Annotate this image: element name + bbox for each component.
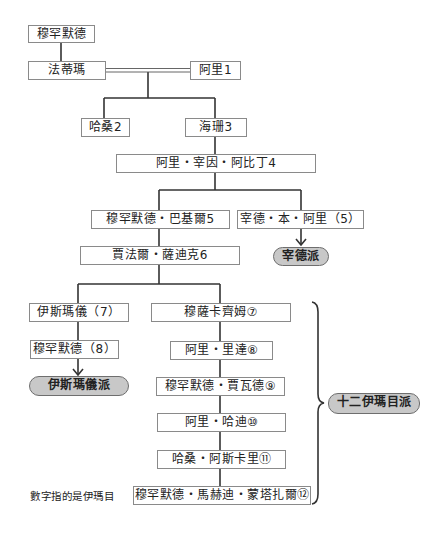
node-jafar-sadiq-6: 賈法爾・薩迪克6 — [80, 246, 240, 265]
node-musa-kazim-7: 穆薩卡齊姆⑦ — [151, 303, 291, 322]
node-fatima: 法蒂瑪 — [28, 61, 106, 80]
node-muhammad-8: 穆罕默德（8） — [30, 340, 119, 359]
node-ali-hadi-10: 阿里・哈迪⑩ — [157, 413, 286, 432]
node-muhammad-jawad-9: 穆罕默德・賈瓦德⑨ — [156, 377, 285, 396]
node-ali-1: 阿里1 — [190, 61, 241, 80]
node-muhammad: 穆罕默德 — [28, 25, 95, 43]
node-hasan-askari-11: 哈桑・阿斯卡里⑪ — [157, 450, 286, 469]
shia-imam-lineage-diagram: 穆罕默德 法蒂瑪 阿里1 哈桑2 海珊3 阿里・宰因・阿比丁4 穆罕默德・巴基爾… — [0, 0, 443, 535]
sect-twelver: 十二伊瑪目派 — [328, 393, 420, 414]
node-muhammad-baqir-5: 穆罕默德・巴基爾5 — [91, 210, 230, 229]
node-ali-zayn-4: 阿里・宰因・阿比丁4 — [116, 154, 316, 173]
node-ismail-7: 伊斯瑪儀（7） — [29, 303, 129, 322]
sect-ismaili: 伊斯瑪儀派 — [29, 376, 129, 396]
sect-zaydi: 宰德派 — [273, 247, 329, 266]
node-husayn-3: 海珊3 — [185, 118, 247, 137]
node-muhammad-mahdi-12: 穆罕默德・馬赫迪・蒙塔扎爾⑫ — [133, 486, 311, 505]
node-ali-rida-8: 阿里・里達⑧ — [170, 341, 273, 360]
node-hasan-2: 哈桑2 — [81, 118, 130, 137]
node-zayd-bin-ali-5: 宰德・本・阿里（5） — [237, 210, 364, 229]
legend-note: 數字指的是伊瑪目 — [30, 490, 114, 503]
